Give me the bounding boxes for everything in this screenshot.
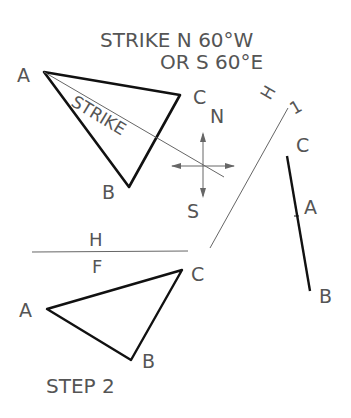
- edge-label-a: A: [304, 196, 317, 218]
- fold-line-hf-stroke: [32, 251, 188, 252]
- fold-line-h1-stroke: [210, 108, 288, 248]
- title-line-1: STRIKE N 60°W: [100, 28, 254, 52]
- arrow-east-icon: [225, 163, 235, 169]
- fold-hf-label-h: H: [89, 229, 103, 250]
- triangle-abc-front: [47, 270, 182, 360]
- top-view-triangle: A C B STRIKE: [17, 64, 224, 203]
- top-label-b: B: [102, 181, 115, 203]
- arrow-south-icon: [200, 188, 206, 198]
- fold-h1-label-1: 1: [286, 96, 305, 119]
- compass-s-label: S: [187, 200, 199, 222]
- title-line-2: OR S 60°E: [160, 50, 263, 74]
- step-label: STEP 2: [46, 374, 115, 398]
- front-label-b: B: [142, 350, 155, 372]
- edge-view: C A B: [287, 134, 332, 307]
- compass-n-label: N: [210, 105, 224, 127]
- edge-label-c: C: [296, 134, 309, 156]
- compass: N S: [171, 105, 235, 222]
- fold-h1-label-h: H: [256, 82, 280, 103]
- fold-line-hf: H F: [32, 229, 188, 277]
- fold-line-h1: H 1: [210, 82, 305, 248]
- arrow-north-icon: [200, 132, 206, 142]
- top-label-c: C: [193, 86, 206, 108]
- front-view-triangle: A C B: [19, 263, 204, 372]
- front-label-c: C: [191, 263, 204, 285]
- diagram-canvas: STRIKE N 60°W OR S 60°E A C B STRIKE N S…: [0, 0, 351, 418]
- edge-label-b: B: [319, 285, 332, 307]
- front-label-a: A: [19, 299, 32, 321]
- edge-view-line: [287, 156, 310, 291]
- fold-hf-label-f: F: [92, 256, 102, 277]
- arrow-west-icon: [171, 163, 181, 169]
- top-label-a: A: [17, 64, 30, 86]
- drawing: STRIKE N 60°W OR S 60°E A C B STRIKE N S…: [0, 0, 351, 418]
